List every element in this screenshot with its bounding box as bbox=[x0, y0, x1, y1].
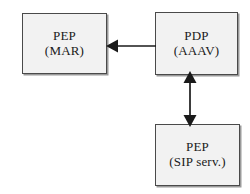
node-pep-mar-line1: PEP bbox=[53, 29, 76, 44]
arrowhead-down-icon bbox=[184, 115, 197, 127]
edge-pdp-to-pep-sip bbox=[176, 70, 204, 128]
arrowhead-up-icon bbox=[184, 71, 197, 83]
node-pdp-aaav-line1: PDP bbox=[184, 29, 208, 44]
node-pep-sip[interactable]: PEP (SIP serv.) bbox=[155, 124, 240, 186]
node-pep-mar[interactable]: PEP (MAR) bbox=[22, 13, 107, 74]
node-pdp-aaav-line2: (AAAV) bbox=[174, 44, 220, 59]
node-pdp-aaav[interactable]: PDP (AAAV) bbox=[155, 12, 238, 75]
node-pep-mar-line2: (MAR) bbox=[45, 44, 84, 59]
node-pep-sip-line1: PEP bbox=[186, 140, 209, 155]
edge-pdp-to-pep-mar bbox=[100, 36, 160, 56]
node-pep-sip-line2: (SIP serv.) bbox=[169, 155, 225, 170]
diagram-canvas: PEP (MAR) PDP (AAAV) PEP (SIP serv.) bbox=[0, 0, 250, 194]
arrowhead-left-icon bbox=[106, 40, 118, 53]
